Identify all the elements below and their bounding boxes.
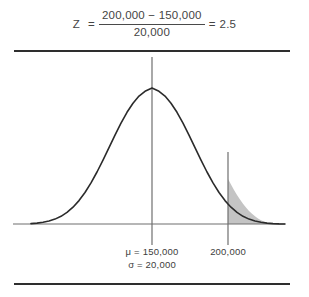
formula-equals-sign: = bbox=[84, 18, 99, 30]
z-score-formula: Z = 200,000 − 150,000 20,000 = 2.5 bbox=[0, 6, 309, 42]
formula-result-equals-sign: = bbox=[205, 18, 220, 30]
formula-expression: Z = 200,000 − 150,000 20,000 = 2.5 bbox=[73, 9, 236, 39]
formula-variable: Z bbox=[73, 18, 84, 30]
mean-label-group: μ = 150,000 σ = 20,000 bbox=[126, 246, 179, 271]
cutoff-label-group: 200,000 bbox=[210, 246, 246, 259]
mean-label: μ = 150,000 bbox=[126, 246, 179, 259]
normal-curve bbox=[31, 88, 285, 224]
cutoff-label: 200,000 bbox=[210, 246, 246, 259]
formula-result: 2.5 bbox=[220, 18, 237, 30]
bottom-divider-rule bbox=[14, 283, 290, 285]
normal-distribution-chart bbox=[0, 50, 309, 255]
formula-denominator: 20,000 bbox=[131, 25, 173, 40]
shaded-tail-region bbox=[228, 179, 285, 224]
axis-labels: μ = 150,000 σ = 20,000 200,000 bbox=[0, 246, 309, 282]
sigma-label: σ = 20,000 bbox=[126, 259, 179, 272]
formula-fraction: 200,000 − 150,000 20,000 bbox=[99, 9, 205, 39]
formula-numerator: 200,000 − 150,000 bbox=[99, 9, 205, 24]
